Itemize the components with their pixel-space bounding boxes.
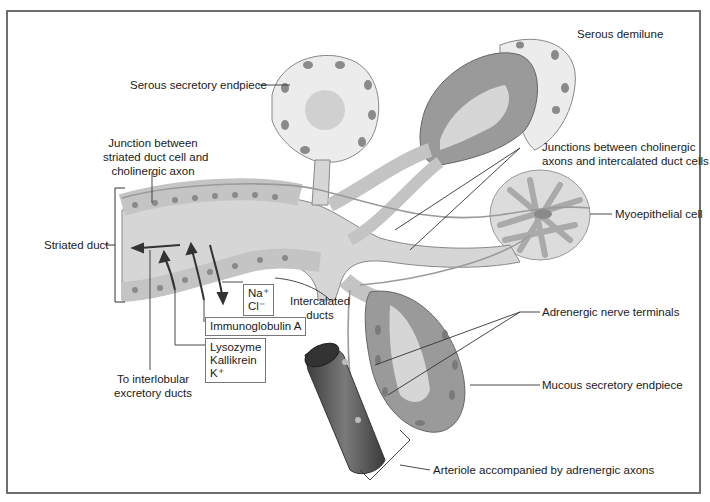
box-ions: Na⁺ Cl⁻ <box>243 284 274 316</box>
label-serous-secretory-endpiece: Serous secretory endpiece <box>130 78 267 92</box>
mucous-endpiece-bottom <box>365 291 465 432</box>
box-secretions: Lysozyme Kallikrein K⁺ <box>205 338 266 383</box>
label-junction-striated: Junction between striated duct cell and … <box>103 136 203 178</box>
serous-endpiece <box>272 55 379 162</box>
label-myoepithelial-cell: Myoepithelial cell <box>615 207 703 221</box>
label-junctions-intercalated: Junctions between cholinergic axons and … <box>542 140 709 168</box>
label-mucous-secretory-endpiece: Mucous secretory endpiece <box>542 378 683 392</box>
box-immunoglobulin: Immunoglobulin A <box>205 317 306 336</box>
label-arteriole: Arteriole accompanied by adrenergic axon… <box>433 463 654 477</box>
label-to-interlobular: To interlobular excretory ducts <box>108 372 198 400</box>
label-serous-demilune: Serous demilune <box>577 27 663 41</box>
label-adrenergic-nerve-terminals: Adrenergic nerve terminals <box>542 305 679 319</box>
label-striated-duct: Striated duct <box>44 238 109 252</box>
